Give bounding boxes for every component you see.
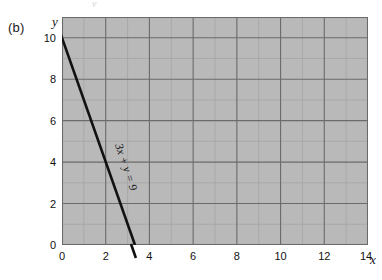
x-tick-label-0: 0: [59, 250, 65, 262]
x-tick-label-8: 8: [234, 250, 240, 262]
y-tick-label-0: 0: [34, 239, 56, 251]
y-tick-label-6: 6: [34, 115, 56, 127]
figure-panel-b: y (b): [0, 0, 382, 280]
x-tick-label-12: 12: [318, 250, 330, 262]
y-tick-label-4: 4: [34, 156, 56, 168]
y-tick-label-10: 10: [34, 32, 56, 44]
x-tick-label-14: 14: [360, 250, 372, 262]
y-tick-label-8: 8: [34, 73, 56, 85]
plot-svg: 3x + y = 9: [62, 17, 368, 245]
x-tick-label-6: 6: [190, 250, 196, 262]
x-tick-label-10: 10: [274, 250, 286, 262]
plot-area: 3x + y = 9: [62, 17, 368, 245]
y-tick-label-2: 2: [34, 198, 56, 210]
x-tick-label-4: 4: [146, 250, 152, 262]
x-tick-label-2: 2: [103, 250, 109, 262]
panel-label: (b): [8, 20, 25, 35]
scan-artifact: y: [92, 0, 102, 7]
y-axis-label: y: [52, 14, 58, 30]
